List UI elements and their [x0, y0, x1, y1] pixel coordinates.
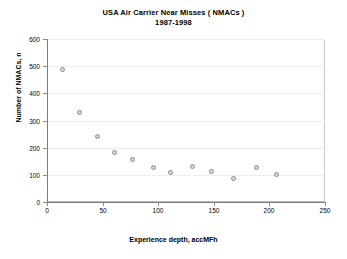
- data-point: [274, 172, 279, 177]
- chart-container: USA Air Carrier Near Misses ( NMACs ) 19…: [0, 0, 347, 259]
- x-tick-label-100: 100: [144, 207, 172, 214]
- chart-title: USA Air Carrier Near Misses ( NMACs ): [0, 8, 347, 18]
- data-point: [168, 170, 173, 175]
- data-point: [209, 169, 214, 174]
- gridline-y-600: [48, 39, 325, 40]
- y-tick-500: [43, 66, 48, 67]
- x-tick-label-200: 200: [255, 207, 283, 214]
- y-tick-100: [43, 175, 48, 176]
- data-point: [231, 176, 236, 181]
- y-tick-600: [43, 39, 48, 40]
- x-tick-label-150: 150: [200, 207, 228, 214]
- x-tick-250: [325, 202, 326, 206]
- x-axis-line: [47, 202, 326, 203]
- x-tick-50: [103, 202, 104, 206]
- y-tick-400: [43, 93, 48, 94]
- chart-title-block: USA Air Carrier Near Misses ( NMACs ) 19…: [0, 8, 347, 28]
- x-tick-0: [47, 202, 48, 206]
- x-tick-150: [214, 202, 215, 206]
- chart-subtitle: 1987-1998: [0, 18, 347, 28]
- y-tick-label-100: 100: [14, 172, 40, 179]
- y-axis-title: Number of NMACs, n: [15, 23, 22, 153]
- gridline-y-500: [48, 66, 325, 67]
- gridline-y-300: [48, 121, 325, 122]
- x-tick-label-250: 250: [311, 207, 339, 214]
- gridline-y-400: [48, 93, 325, 94]
- x-axis-title: Experience depth, accMFh: [0, 236, 347, 243]
- data-point: [95, 134, 100, 139]
- x-tick-200: [269, 202, 270, 206]
- x-tick-label-0: 0: [33, 207, 61, 214]
- data-point: [254, 165, 259, 170]
- y-tick-label-0: 0: [14, 199, 40, 206]
- gridline-y-100: [48, 175, 325, 176]
- data-point: [77, 110, 82, 115]
- x-tick-100: [158, 202, 159, 206]
- x-tick-label-50: 50: [89, 207, 117, 214]
- gridline-y-200: [48, 148, 325, 149]
- y-tick-200: [43, 148, 48, 149]
- y-tick-300: [43, 121, 48, 122]
